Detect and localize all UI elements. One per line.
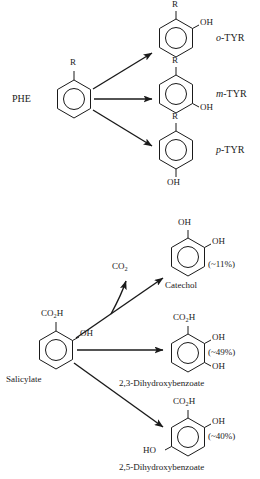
dhb23-co2h-head: CO xyxy=(173,312,186,322)
p-tyr-name: p-TYR xyxy=(216,145,244,155)
ring-23-dihydroxybenzoate xyxy=(172,326,212,372)
dhb23-substituent-oh-right: OH xyxy=(212,333,225,342)
dhb23-substituent-co2h: CO2H xyxy=(173,313,195,323)
salicylate-substituent-co2h: CO2H xyxy=(41,309,63,319)
o-tyr-substituent-oh: OH xyxy=(200,18,213,27)
salicylate-co2h-tail: H xyxy=(57,308,64,318)
co2-sub: 2 xyxy=(125,265,128,272)
dhb25-name: 2,5-Dihydroxybenzoate xyxy=(119,463,204,472)
salicylate-co2h-head: CO xyxy=(41,308,54,318)
p-tyr-substituent-oh: OH xyxy=(167,178,180,187)
salicylate-name: Salicylate xyxy=(6,375,42,384)
p-tyr-substituent-r: R xyxy=(172,112,178,121)
scheme-phenylalanine-hydroxylation: PHE R R OH o-TYR R OH m-TYR R OH p-TYR xyxy=(0,0,260,205)
arrow-phe-to-p-tyr xyxy=(93,110,152,146)
arrow-salicylate-to-25dhb xyxy=(74,363,163,427)
ring-p-tyr xyxy=(160,123,193,177)
catechol-substituent-oh-top: OH xyxy=(178,218,191,227)
dhb25-substituent-ho-left: HO xyxy=(143,446,156,455)
o-tyr-name-suffix: -TYR xyxy=(221,32,244,43)
p-tyr-name-suffix: -TYR xyxy=(221,144,244,155)
ring-25-dihydroxybenzoate xyxy=(165,410,211,456)
catechol-substituent-oh-right: OH xyxy=(212,237,225,246)
scheme1-drawing xyxy=(0,0,260,205)
dhb23-co2h-tail: H xyxy=(189,312,196,322)
m-tyr-substituent-r: R xyxy=(172,56,178,65)
ring-m-tyr xyxy=(160,67,200,113)
phe-label: PHE xyxy=(12,94,31,104)
dhb23-substituent-oh-bottom: OH xyxy=(212,362,225,371)
m-tyr-substituent-oh: OH xyxy=(200,103,213,112)
arrow-phe-to-o-tyr xyxy=(93,53,152,89)
dhb25-yield: (~40%) xyxy=(208,432,235,441)
m-tyr-name-suffix: -TYR xyxy=(223,88,246,99)
ring-catechol xyxy=(172,230,212,276)
ring-salicylate xyxy=(40,322,80,369)
dhb23-yield: (~49%) xyxy=(208,348,235,357)
co2-head: CO xyxy=(112,261,125,271)
catechol-yield: (~11%) xyxy=(208,260,235,269)
dhb23-name: 2,3-Dihydroxybenzoate xyxy=(119,379,204,388)
scheme-salicylate-hydroxylation: CO2H OH Salicylate CO2 OH OH Catechol (~… xyxy=(0,205,260,479)
ring-o-tyr xyxy=(160,11,200,57)
ring-phe xyxy=(58,71,91,118)
dhb25-substituent-oh-right: OH xyxy=(212,417,225,426)
dhb25-substituent-co2h: CO2H xyxy=(173,397,195,407)
phe-substituent-r: R xyxy=(70,58,76,67)
dhb25-co2h-tail: H xyxy=(189,396,196,406)
salicylate-substituent-oh: OH xyxy=(80,329,93,338)
m-tyr-name: m-TYR xyxy=(216,89,247,99)
dhb25-co2h-head: CO xyxy=(173,396,186,406)
byproduct-co2: CO2 xyxy=(112,262,128,272)
catechol-name: Catechol xyxy=(165,281,197,290)
o-tyr-substituent-r: R xyxy=(172,0,178,9)
o-tyr-name: o-TYR xyxy=(216,33,244,43)
